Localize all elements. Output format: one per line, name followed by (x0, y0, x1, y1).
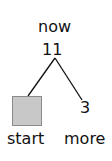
edge-right (55, 58, 82, 100)
edge-left (28, 58, 55, 96)
start-label: start (7, 131, 44, 147)
more-label: more (64, 131, 105, 147)
start-node-square (12, 96, 42, 126)
more-node-value: 3 (80, 100, 90, 116)
